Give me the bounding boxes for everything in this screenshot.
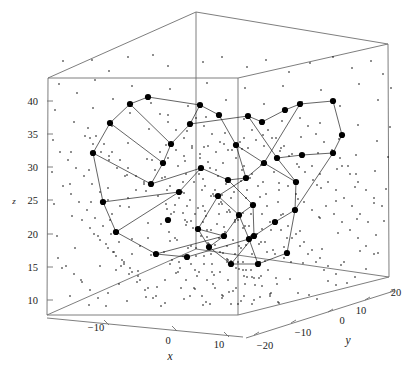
scatter-point	[228, 291, 230, 293]
scatter-point	[262, 134, 264, 136]
mesh-edge	[110, 104, 130, 123]
scatter-point	[273, 171, 275, 173]
scatter-point	[222, 162, 224, 164]
scatter-point	[280, 214, 282, 216]
scatter-point	[107, 187, 109, 189]
x-axis: −10010 x	[47, 318, 243, 362]
scatter-point	[315, 133, 317, 135]
mesh-node	[282, 107, 288, 113]
scatter-point	[196, 275, 198, 277]
scatter-point	[203, 255, 205, 257]
scatter-point	[102, 225, 104, 227]
mesh-node	[168, 141, 174, 147]
scatter-point	[237, 219, 239, 221]
scatter-point	[264, 241, 266, 243]
scatter-point	[225, 99, 227, 101]
scatter-point	[178, 261, 180, 263]
mesh-edge	[236, 145, 246, 178]
scatter-point	[219, 141, 221, 143]
scatter-point	[135, 189, 137, 191]
mesh-edge	[264, 104, 300, 163]
scatter-point	[243, 165, 245, 167]
scatter-point	[71, 215, 73, 217]
figure-canvas: 40353025201510 z −10010 x −20−1001020 y	[0, 0, 412, 366]
scatter-point	[123, 263, 125, 265]
scatter-point	[266, 251, 268, 253]
mesh-node	[297, 101, 303, 107]
scatter-point	[375, 234, 377, 236]
bounding-box-frame	[47, 12, 389, 315]
scatter-point	[99, 265, 101, 267]
scatter-point	[300, 136, 302, 138]
scatter-point	[390, 87, 392, 89]
x-axis-ticks: −10010	[88, 320, 229, 350]
mesh-node	[330, 98, 336, 104]
mesh-edge	[236, 145, 264, 163]
scatter-point	[333, 213, 335, 215]
scatter-point	[377, 99, 379, 101]
scatter-point	[238, 245, 240, 247]
scatter-point	[240, 300, 242, 302]
scatter-point	[131, 238, 133, 240]
scatter-point	[259, 296, 261, 298]
scatter-point	[184, 219, 186, 221]
scatter-point	[238, 268, 240, 270]
scatter-point	[243, 118, 245, 120]
scatter-point	[241, 169, 243, 171]
scatter-point	[243, 137, 245, 139]
scatter-point	[61, 267, 63, 269]
scatter-point	[359, 213, 361, 215]
scatter-point	[381, 205, 383, 207]
scatter-point	[187, 247, 189, 249]
mesh-edge	[277, 158, 296, 182]
mesh-node	[145, 94, 151, 100]
scatter-point	[152, 54, 154, 56]
scatter-point	[298, 166, 300, 168]
z-tick-label: 25	[28, 195, 39, 206]
scatter-point	[89, 227, 91, 229]
scatter-point	[169, 263, 171, 265]
scatter-point	[167, 121, 169, 123]
scatter-point	[131, 85, 133, 87]
scatter-point	[258, 277, 260, 279]
scatter-point	[351, 205, 353, 207]
scatter-point	[339, 157, 341, 159]
scatter-point	[283, 257, 285, 259]
scatter-point	[223, 143, 225, 145]
scatter-point	[319, 257, 321, 259]
scatter-point	[123, 261, 125, 263]
scatter-point	[340, 264, 342, 266]
scatter-point	[69, 295, 71, 297]
scatter-point	[222, 295, 224, 297]
scatter-point	[164, 302, 166, 304]
scatter-point	[299, 117, 301, 119]
scatter-point	[269, 221, 271, 223]
scatter-point	[127, 167, 129, 169]
scatter-point	[246, 189, 248, 191]
scatter-point	[224, 132, 226, 134]
scatter-point	[164, 176, 166, 178]
z-axis-ticks: 40353025201510	[28, 96, 54, 306]
scatter-point	[260, 275, 262, 277]
z-tick-label: 40	[28, 96, 39, 107]
scatter-point	[210, 253, 212, 255]
scatter-point	[92, 143, 94, 145]
scatter-point	[302, 262, 304, 264]
scatter-point	[320, 89, 322, 91]
scatter-point	[52, 139, 54, 141]
scatter-point	[261, 228, 263, 230]
scatter-point	[206, 236, 208, 238]
mesh-edge	[249, 239, 258, 264]
mesh-edge	[103, 192, 179, 202]
scatter-point	[214, 287, 216, 289]
scatter-point	[151, 159, 153, 161]
mesh-node	[127, 101, 133, 107]
scatter-point	[343, 197, 345, 199]
scatter-point	[233, 191, 235, 193]
scatter-point	[94, 217, 96, 219]
scatter-point	[286, 237, 288, 239]
scatter-point	[357, 181, 359, 183]
mesh-edge	[200, 105, 219, 115]
scatter-point	[270, 229, 272, 231]
scatter-point	[354, 276, 356, 278]
